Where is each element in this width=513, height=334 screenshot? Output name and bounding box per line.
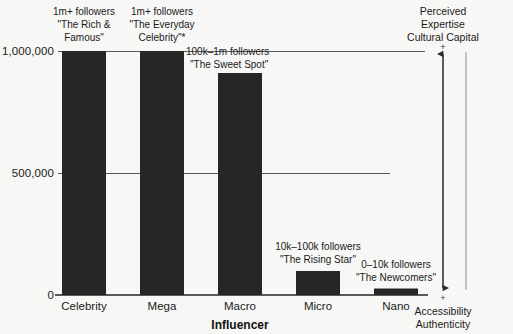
x-tick-micro: Micro bbox=[304, 300, 332, 312]
callout-micro: 10k–100k followers "The Rising Star" bbox=[275, 241, 361, 265]
callout-micro-line2: "The Rising Star" bbox=[280, 254, 356, 265]
bar-micro bbox=[296, 271, 340, 295]
side-axis-bottom-line1: Accessibility bbox=[414, 305, 472, 317]
callout-nano: 0–10k followers "The Newcomers" bbox=[356, 259, 436, 283]
x-tick-mega: Mega bbox=[148, 300, 177, 312]
callout-mega-line3: Celebrity"* bbox=[139, 32, 186, 43]
y-tick-500000: 500,000 bbox=[12, 167, 54, 179]
callout-macro-line1: 100k–1m followers bbox=[186, 46, 269, 57]
callout-nano-line2: "The Newcomers" bbox=[356, 272, 436, 283]
bar-mega bbox=[140, 51, 184, 295]
y-tick-1000000: 1,000,000 bbox=[2, 45, 54, 57]
bar-macro bbox=[218, 73, 262, 295]
side-axis-top-line2: Expertise bbox=[421, 18, 465, 30]
callout-celebrity: 1m+ followers "The Rich & Famous" bbox=[53, 6, 115, 43]
bar-nano bbox=[374, 289, 418, 296]
y-tick-0: 0 bbox=[48, 289, 55, 301]
callout-mega-line1: 1m+ followers bbox=[131, 6, 193, 17]
x-tick-macro: Macro bbox=[224, 300, 256, 312]
callout-macro-line2: "The Sweet Spot" bbox=[190, 59, 269, 70]
side-axis-bottom-line2: Authenticity bbox=[416, 318, 471, 330]
x-tick-celebrity: Celebrity bbox=[61, 300, 107, 312]
bar-celebrity bbox=[62, 51, 106, 295]
side-axis-top-plus-sign: + bbox=[440, 42, 445, 52]
callout-macro: 100k–1m followers "The Sweet Spot" bbox=[186, 46, 269, 70]
x-tick-nano: Nano bbox=[382, 300, 410, 312]
callout-celebrity-line3: Famous" bbox=[64, 32, 104, 43]
callout-mega: 1m+ followers "The Everyday Celebrity"* bbox=[129, 6, 194, 43]
callout-micro-line1: 10k–100k followers bbox=[275, 241, 361, 252]
callout-nano-line1: 0–10k followers bbox=[361, 259, 430, 270]
side-axis-top-line1: Perceived bbox=[420, 5, 467, 17]
callout-celebrity-line1: 1m+ followers bbox=[53, 6, 115, 17]
chart-canvas: 1,000,000 500,000 0 Celebrity Mega Macro… bbox=[0, 0, 513, 334]
callout-celebrity-line2: "The Rich & bbox=[57, 19, 110, 30]
callout-mega-line2: "The Everyday bbox=[129, 19, 194, 30]
side-axis-bottom-plus-sign: + bbox=[440, 293, 445, 303]
influencer-tier-bar-chart: 1,000,000 500,000 0 Celebrity Mega Macro… bbox=[0, 0, 513, 334]
x-axis-title: Influencer bbox=[211, 318, 269, 332]
